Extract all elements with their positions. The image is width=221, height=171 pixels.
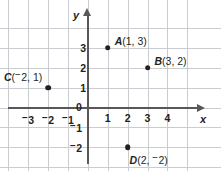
y-tick-label: 1	[72, 82, 86, 94]
gridline-horizontal	[0, 88, 221, 89]
gridline-horizontal	[0, 48, 221, 49]
x-tick-label: −3	[22, 112, 34, 126]
y-axis	[87, 14, 89, 164]
point-d	[125, 145, 131, 151]
negative-sign: −	[22, 112, 28, 123]
gridline-vertical	[167, 0, 168, 171]
gridline-vertical	[8, 0, 9, 171]
gridline-vertical	[108, 0, 109, 171]
x-tick-label: −2	[42, 112, 54, 126]
negative-sign: −	[62, 112, 68, 123]
y-tick-label: −1	[68, 120, 82, 134]
y-tick-label: 3	[72, 42, 86, 54]
negative-sign: −	[42, 112, 48, 123]
x-tick-label: 3	[145, 112, 151, 124]
point-label-c: C(−2, 1)	[4, 69, 42, 83]
negative-sign: −	[70, 120, 76, 131]
gridline-vertical	[187, 0, 188, 171]
gridline-horizontal	[0, 127, 221, 128]
y-axis-arrow-icon	[83, 8, 91, 16]
origin-label: 0	[76, 101, 82, 113]
point-b	[145, 65, 151, 71]
gridline-horizontal	[0, 28, 221, 29]
point-label-b: B(3, 2)	[155, 55, 187, 67]
x-tick-label: 2	[125, 112, 131, 124]
point-a	[105, 45, 111, 51]
gridline-vertical	[28, 0, 29, 171]
x-axis	[8, 107, 198, 109]
y-tick-label: −2	[68, 140, 82, 154]
y-tick-label: 2	[72, 62, 86, 74]
y-axis-label: y	[73, 9, 79, 21]
gridline-horizontal	[0, 167, 221, 168]
x-tick-label: 1	[105, 112, 111, 124]
negative-sign: −	[15, 69, 21, 80]
point-label-a: A(1, 3)	[115, 35, 147, 47]
gridline-horizontal	[0, 147, 221, 148]
x-axis-arrow-icon	[197, 104, 205, 112]
point-label-d: D(2, −2)	[130, 152, 168, 166]
x-axis-label: x	[200, 113, 206, 125]
negative-sign: −	[152, 152, 158, 163]
point-c	[45, 85, 51, 91]
negative-sign: −	[70, 140, 76, 151]
coordinate-plane: x y 0 −3−2−11234 321−1−2 A(1, 3)B(3, 2)C…	[0, 0, 221, 171]
gridline-vertical	[148, 0, 149, 171]
grid	[0, 0, 221, 171]
x-tick-label: 4	[164, 112, 170, 124]
